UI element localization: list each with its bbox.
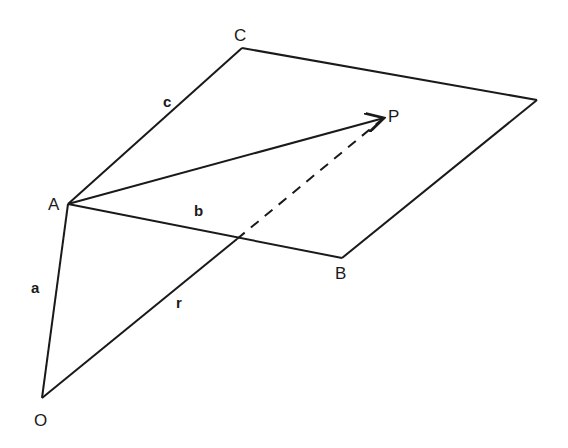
vector-label-b: b	[194, 203, 203, 218]
edge-b-d	[342, 100, 537, 258]
vector-label-c: c	[163, 94, 171, 109]
point-label-c: C	[234, 27, 246, 44]
point-label-b: B	[335, 265, 346, 282]
edge-a-b	[68, 204, 342, 258]
vector-b-arrowhead	[68, 204, 198, 230]
vector-a	[42, 204, 68, 398]
edge-d-c	[242, 48, 537, 100]
point-label-p: P	[388, 108, 399, 125]
vector-r	[42, 121, 380, 398]
plane-outline	[68, 48, 537, 258]
vector-label-a: a	[31, 280, 39, 295]
vector-plane-diagram	[0, 0, 568, 448]
point-label-a: A	[48, 196, 59, 213]
point-label-o: O	[34, 412, 47, 429]
vector-label-r: r	[176, 295, 182, 310]
